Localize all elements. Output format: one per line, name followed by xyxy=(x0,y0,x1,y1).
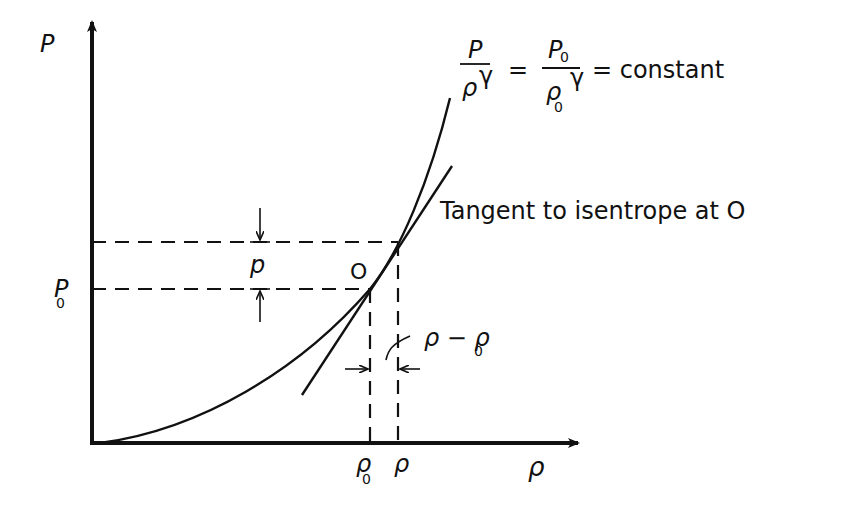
rho-label: ρ xyxy=(394,450,409,478)
svg-text:0: 0 xyxy=(560,49,569,65)
delta-rho-subscript: 0 xyxy=(474,343,483,359)
svg-text:γ: γ xyxy=(479,62,493,90)
isentrope-equation: P ρ γ = P 0 ρ 0 γ = constant xyxy=(460,36,724,115)
svg-text:P: P xyxy=(468,36,483,64)
p-label: p xyxy=(249,251,265,279)
axes xyxy=(90,22,578,443)
svg-text:ρ: ρ xyxy=(462,74,477,102)
tangent-label: Tangent to isentrope at O xyxy=(439,197,745,225)
x-axis-label: ρ xyxy=(528,452,545,482)
p0-subscript: 0 xyxy=(56,295,65,311)
tangent-line xyxy=(302,166,452,395)
point-o-label: O xyxy=(350,259,367,284)
rho-dimension-arrows xyxy=(345,336,420,369)
svg-text:γ: γ xyxy=(570,64,584,92)
svg-text:0: 0 xyxy=(554,99,563,115)
svg-text:=: = xyxy=(508,56,528,84)
rho0-subscript: 0 xyxy=(362,471,371,487)
svg-text:= constant: = constant xyxy=(592,56,724,84)
isentrope-diagram: P ρ P ρ γ = P 0 ρ 0 γ = constant Tangent… xyxy=(0,0,864,512)
y-axis-label: P xyxy=(40,30,55,58)
